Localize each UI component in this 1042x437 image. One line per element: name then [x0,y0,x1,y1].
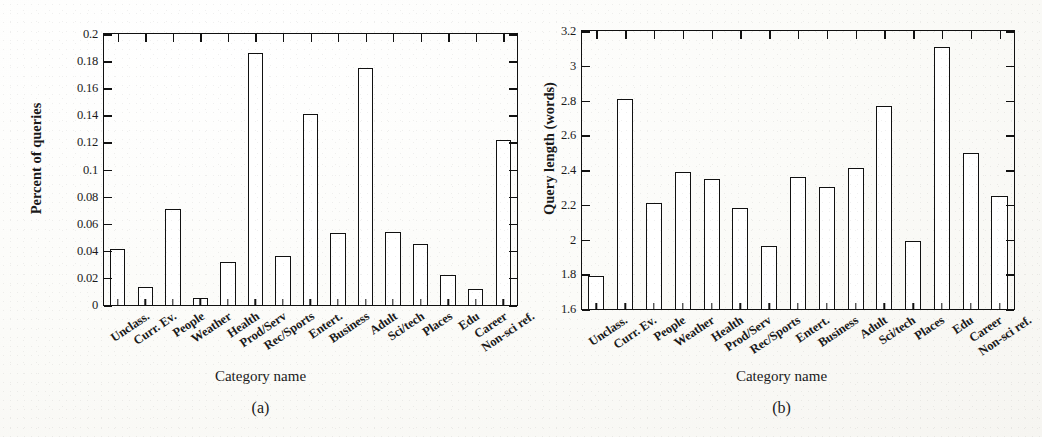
x-tick-label: Places [912,313,948,344]
y-tick-mark-right [1006,274,1014,276]
bar-slot [784,31,813,309]
bar [704,179,720,309]
bar-slot [870,31,899,309]
y-tick-mark [104,224,112,226]
y-tick-mark [104,61,112,63]
y-tick-label: 2 [570,232,576,247]
y-tick-mark-right [1006,101,1014,103]
y-tick-mark-right [1006,240,1014,242]
plot-area-b: 1.61.822.22.42.62.833.2Unclass.Curr. Ev.… [581,30,1015,310]
bar [790,177,806,309]
y-tick-label: 0.08 [77,189,98,204]
top-tick-mark [283,34,284,42]
top-tick-mark [503,34,504,42]
y-tick-mark-right [1006,205,1014,207]
bar [275,256,290,305]
x-tick-label: Places [419,309,455,340]
bar-slot [324,34,352,305]
top-tick-mark [712,31,713,39]
bar [496,140,511,305]
bar-slot [726,31,755,309]
y-tick-mark-right [509,88,517,90]
top-tick-mark [311,34,312,42]
top-tick-mark [173,34,174,42]
bar-slot [379,34,407,305]
top-tick-mark [145,34,146,42]
bar-slot [611,31,640,309]
figure-panel-b: Query length (words) 1.61.822.22.42.62.8… [521,0,1042,437]
top-tick-mark [942,31,943,39]
y-tick-mark-right [509,34,517,36]
bar [385,232,400,305]
bar [991,196,1007,309]
top-tick-mark [740,31,741,39]
bar [303,114,318,305]
bar-slot [697,31,726,309]
y-tick-label: 1.6 [561,302,576,317]
bar [617,99,633,309]
bar-slot [434,34,462,305]
bar-slot [352,34,380,305]
bar-slot [755,31,784,309]
bar [110,249,125,305]
y-axis-title-a: Percent of queries [28,79,45,239]
bar [248,53,263,305]
bar-slot [159,34,187,305]
x-axis-title-b: Category name [521,368,1042,385]
top-tick-mark [338,34,339,42]
y-tick-label: 0.06 [77,216,98,231]
bar-slot [187,34,215,305]
bar [675,172,691,309]
y-tick-label: 3 [570,58,576,73]
top-tick-mark [971,31,972,39]
y-tick-mark-right [1006,66,1014,68]
y-tick-mark-right [1006,135,1014,137]
y-tick-label: 0.12 [77,135,98,150]
y-tick-label: 2.8 [561,93,576,108]
bar-slot [928,31,957,309]
y-tick-mark-right [509,142,517,144]
y-tick-mark [104,34,112,36]
y-tick-label: 0 [92,298,98,313]
bar [646,203,662,309]
y-tick-label: 3.2 [561,24,576,39]
bar-slot [899,31,928,309]
top-tick-mark [255,34,256,42]
top-tick-mark [625,31,626,39]
y-axis-title-b: Query length (words) [541,64,558,234]
y-tick-label: 0.04 [77,243,98,258]
bar [761,246,777,309]
bar [934,47,950,309]
top-tick-mark [366,34,367,42]
y-tick-mark-right [509,170,517,172]
y-tick-mark [104,142,112,144]
bar-slot [407,34,435,305]
top-tick-mark [393,34,394,42]
y-tick-mark [104,170,112,172]
top-tick-mark [1000,31,1001,39]
top-tick-mark [683,31,684,39]
top-tick-mark [421,34,422,42]
y-tick-label: 0.02 [77,270,98,285]
bar [358,68,373,305]
bar-slot [668,31,697,309]
y-tick-mark-right [1006,31,1014,33]
bar-slot [297,34,325,305]
bar-slot [462,34,490,305]
y-tick-mark [582,205,590,207]
bar [848,168,864,309]
y-tick-mark-right [509,61,517,63]
y-tick-mark [104,88,112,90]
bar-slot [269,34,297,305]
y-tick-label: 0.18 [77,54,98,69]
bar [330,233,345,305]
figure-panel-a: Percent of queries 00.020.040.060.080.10… [0,0,521,437]
bar-slot [812,31,841,309]
y-tick-label: 2.4 [561,163,576,178]
top-tick-mark [913,31,914,39]
top-tick-mark [856,31,857,39]
y-tick-mark [582,170,590,172]
bar-slot [956,31,985,309]
top-tick-mark [769,31,770,39]
y-tick-label: 0.16 [77,81,98,96]
